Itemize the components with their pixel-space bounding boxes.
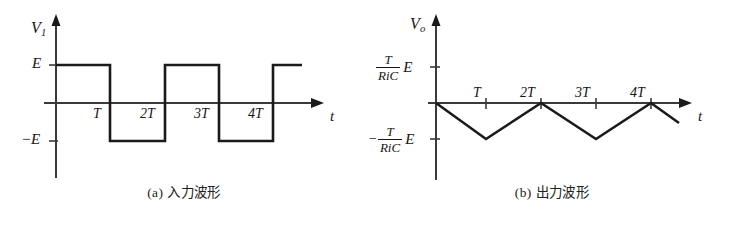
caption-input: (a) 入力波形 <box>0 181 368 201</box>
caption-output: (b) 出力波形 <box>368 181 736 201</box>
x-tick-label-2t: 2T <box>140 107 155 121</box>
fraction-t-over-ric: T RiC <box>376 53 400 82</box>
panel-input-waveform: V1 t E −E T 2T 3T 4T (a) 入力波形 <box>0 0 368 226</box>
x-tick-label-4t: 4T <box>630 86 645 100</box>
x-axis-label-input: t <box>330 109 334 124</box>
amplitude-positive-label: E <box>32 56 41 71</box>
fraction-numerator: T <box>384 125 395 139</box>
x-axis-arrowhead <box>311 98 324 108</box>
amplitude-negative-label: −E <box>21 132 40 147</box>
x-axis-arrowhead <box>679 98 692 108</box>
x-tick-label-t: T <box>93 107 101 121</box>
fraction-denominator: RiC <box>378 140 402 154</box>
y-axis-arrowhead <box>52 14 61 26</box>
amplitude-factor-e: E <box>405 132 414 147</box>
fraction-t-over-ric-negative: T RiC <box>378 125 402 154</box>
x-tick-label-t: T <box>473 86 481 100</box>
x-tick-label-2t: 2T <box>520 86 535 100</box>
y-axis-arrowhead <box>432 14 441 26</box>
y-axis-label-input: V1 <box>31 20 46 39</box>
panel-output-waveform: Vo t T RiC E − T RiC E T 2T 3T 4T (b) 出力… <box>368 0 736 226</box>
output-triangular-waveform <box>436 103 679 139</box>
fraction-denominator: RiC <box>376 68 400 82</box>
fraction-numerator: T <box>383 53 394 67</box>
x-tick-label-3t: 3T <box>194 107 209 121</box>
amplitude-positive-label-output: T RiC E <box>376 53 412 82</box>
figure-sheet: V1 t E −E T 2T 3T 4T (a) 入力波形 <box>0 0 736 226</box>
y-axis-label-output: Vo <box>410 16 425 35</box>
minus-sign: − <box>369 132 377 147</box>
x-tick-label-3t: 3T <box>575 86 590 100</box>
x-tick-label-4t: 4T <box>248 107 263 121</box>
amplitude-factor-e: E <box>403 60 412 75</box>
x-axis-label-output: t <box>698 109 702 124</box>
amplitude-negative-label-output: − T RiC E <box>369 125 414 154</box>
